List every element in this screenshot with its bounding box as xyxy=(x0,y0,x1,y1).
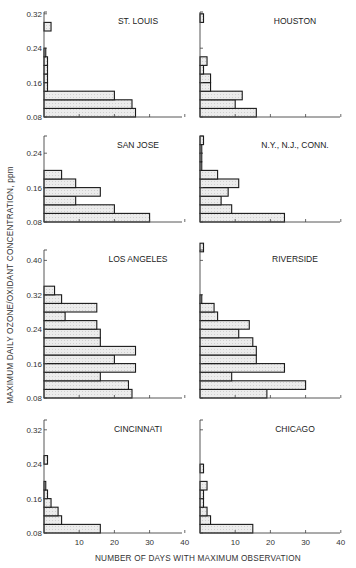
panel-title: ST. LOUIS xyxy=(118,16,158,26)
histogram-bar xyxy=(200,346,256,355)
histogram-bar xyxy=(200,364,284,373)
x-tick-label: 10 xyxy=(231,538,240,547)
histogram-bar xyxy=(200,91,242,100)
histogram-bar xyxy=(44,188,100,197)
histogram-bar xyxy=(200,524,253,533)
histogram-bar xyxy=(44,499,51,508)
panel-chicago: 10203040CHICAGO xyxy=(200,420,346,547)
panel-houston: HOUSTON xyxy=(200,12,341,117)
histogram-bar xyxy=(200,329,239,338)
ozone-histogram-figure: 0.080.160.240.32ST. LOUISHOUSTON0.080.16… xyxy=(0,0,356,568)
histogram-bar xyxy=(44,286,55,295)
y-tick-label: 0.32 xyxy=(26,291,42,300)
panel-san-jose: 0.080.160.24SAN JOSE xyxy=(26,136,184,227)
histogram-bar xyxy=(44,295,62,304)
histogram-bar xyxy=(200,170,218,179)
histogram-bar xyxy=(200,338,253,347)
x-tick-label: 20 xyxy=(266,538,275,547)
histogram-bar xyxy=(200,507,207,516)
histogram-bar xyxy=(200,179,239,188)
histogram-bar xyxy=(44,507,58,516)
histogram-bar xyxy=(44,524,100,533)
x-tick-label: 40 xyxy=(180,538,189,547)
panel-title: RIVERSIDE xyxy=(272,254,318,264)
histogram-bar xyxy=(44,100,132,109)
panel-title: N.Y., N.J., CONN. xyxy=(261,140,328,150)
histogram-bar xyxy=(44,91,114,100)
histogram-bar xyxy=(44,57,48,66)
histogram-bar xyxy=(44,355,114,364)
histogram-bar xyxy=(44,456,48,465)
histogram-bar xyxy=(200,481,207,490)
histogram-bar xyxy=(44,364,136,373)
y-tick-label: 0.24 xyxy=(26,149,42,158)
histogram-bar xyxy=(44,196,76,205)
panel-riverside: RIVERSIDE xyxy=(200,243,341,398)
x-tick-label: 20 xyxy=(110,538,119,547)
histogram-bar xyxy=(44,338,100,347)
histogram-bar xyxy=(200,57,207,66)
y-tick-label: 0.16 xyxy=(26,79,42,88)
y-tick-label: 0.08 xyxy=(26,218,42,227)
y-tick-label: 0.16 xyxy=(26,184,42,193)
y-tick-label: 0.24 xyxy=(26,44,42,53)
y-tick-label: 0.16 xyxy=(26,360,42,369)
histogram-bar xyxy=(200,499,204,508)
histogram-bar xyxy=(44,516,62,525)
histogram-bar xyxy=(200,490,204,499)
y-tick-label: 0.40 xyxy=(26,256,42,265)
histogram-bar xyxy=(200,321,249,330)
histogram-bar xyxy=(200,516,211,525)
histogram-bar xyxy=(200,74,211,83)
histogram-bar xyxy=(200,14,204,23)
x-tick-label: 30 xyxy=(145,538,154,547)
histogram-bar xyxy=(200,188,228,197)
histogram-bar xyxy=(200,312,218,321)
histogram-bar xyxy=(200,100,235,109)
histogram-bar xyxy=(44,321,97,330)
histogram-bar xyxy=(200,389,267,398)
histogram-bar xyxy=(200,243,204,252)
histogram-bar xyxy=(44,83,48,92)
histogram-bar xyxy=(200,83,211,92)
histogram-bar xyxy=(200,464,204,473)
histogram-bar xyxy=(44,329,100,338)
histogram-bar xyxy=(44,389,132,398)
histogram-bar xyxy=(200,205,232,214)
histogram-bar xyxy=(44,490,48,499)
x-tick-label: 40 xyxy=(336,538,345,547)
histogram-bar xyxy=(200,136,204,145)
histogram-bar xyxy=(44,108,136,117)
histogram-bar xyxy=(44,74,48,83)
histogram-bar xyxy=(44,213,150,222)
histogram-bar xyxy=(200,213,284,222)
panel-cincinnati: 0.080.160.240.3210203040CINCINNATI xyxy=(26,420,189,547)
y-tick-label: 0.32 xyxy=(26,426,42,435)
x-axis-label: NUMBER OF DAYS WITH MAXIMUM OBSERVATION xyxy=(95,554,301,563)
y-axis-label: MAXIMUM DAILY OZONE/OXIDANT CONCENTRATIO… xyxy=(6,166,15,403)
panel-title: CINCINNATI xyxy=(114,424,162,434)
x-tick-label: 30 xyxy=(301,538,310,547)
histogram-bar xyxy=(200,381,306,390)
y-tick-label: 0.08 xyxy=(26,113,42,122)
panel-title: SAN JOSE xyxy=(117,140,159,150)
histogram-bar xyxy=(44,372,100,381)
histogram-bar xyxy=(200,372,232,381)
panel-n-y-n-j-conn: N.Y., N.J., CONN. xyxy=(200,136,341,222)
panel-st-louis: 0.080.160.240.32ST. LOUIS xyxy=(26,10,184,122)
y-tick-label: 0.32 xyxy=(26,10,42,19)
histogram-bar xyxy=(200,355,256,364)
panel-title: CHICAGO xyxy=(275,424,315,434)
panel-title: LOS ANGELES xyxy=(108,254,167,264)
histogram-bar xyxy=(44,205,114,214)
histogram-bar xyxy=(200,65,204,74)
panel-los-angeles: 0.080.160.240.320.40LOS ANGELES xyxy=(26,250,184,403)
y-tick-label: 0.16 xyxy=(26,495,42,504)
histogram-bar xyxy=(44,22,51,31)
histogram-bar xyxy=(44,346,136,355)
y-tick-label: 0.08 xyxy=(26,394,42,403)
y-tick-label: 0.24 xyxy=(26,460,42,469)
histogram-bar xyxy=(44,381,128,390)
histogram-bar xyxy=(200,303,214,312)
histogram-bar xyxy=(200,108,256,117)
